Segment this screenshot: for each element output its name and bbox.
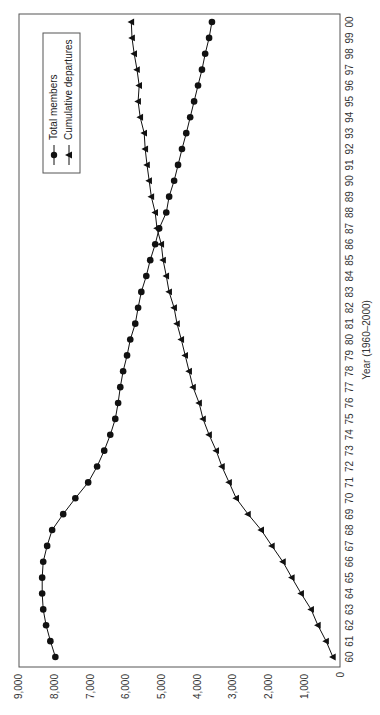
value-tick-label: 0 [335,672,346,678]
data-series [39,19,336,661]
year-tick-label: 89 [344,191,355,203]
circle-marker-icon [124,352,131,359]
year-tick-label: 77 [344,381,355,393]
year-tick-label: 74 [344,429,355,441]
value-axis-ticks: 01,0002,0003,0004,0005,0006,0007,0008,00… [13,672,345,699]
year-tick-label: 87 [344,222,355,234]
line-chart: 01,0002,0003,0004,0005,0006,0007,0008,00… [0,0,380,715]
value-tick-label: 8,000 [49,674,60,699]
year-tick-label: 60 [344,651,355,663]
value-tick-label: 4,000 [192,674,203,699]
legend: Total members Cumulative departures [43,33,80,173]
triangle-marker-icon [297,590,304,597]
circle-marker-icon [166,193,173,200]
year-tick-label: 90 [344,175,355,187]
triangle-marker-icon [128,19,135,26]
circle-marker-icon [202,50,209,57]
circle-marker-icon [120,368,127,375]
year-tick-label: 78 [344,365,355,377]
circle-marker-icon [51,152,57,158]
triangle-marker-icon [257,527,264,534]
year-tick-label: 83 [344,286,355,298]
year-tick-label: 00 [344,16,355,28]
triangle-marker-icon [288,574,295,581]
circle-marker-icon [115,400,122,407]
triangle-marker-icon [212,447,219,454]
circle-marker-icon [40,558,47,565]
circle-marker-icon [195,82,202,89]
year-tick-label: 91 [344,159,355,171]
value-tick-label: 3,000 [227,674,238,699]
circle-marker-icon [117,384,124,391]
year-tick-label: 97 [344,64,355,76]
triangle-marker-icon [279,558,286,565]
year-tick-label: 86 [344,238,355,250]
circle-marker-icon [183,130,190,137]
triangle-marker-icon [232,495,239,502]
year-tick-label: 79 [344,349,355,361]
legend-label-total-members: Total members [48,74,59,140]
circle-marker-icon [138,289,145,296]
circle-marker-icon [135,304,142,311]
circle-marker-icon [52,654,59,661]
value-tick-label: 2,000 [263,674,274,699]
year-tick-label: 61 [344,635,355,647]
triangle-marker-icon [225,479,232,486]
year-tick-label: 73 [344,445,355,457]
value-tick-label: 1,000 [299,674,310,699]
year-tick-label: 71 [344,476,355,488]
year-tick-label: 66 [344,556,355,568]
year-tick-label: 81 [344,318,355,330]
circle-marker-icon [112,416,119,423]
year-tick-label: 75 [344,413,355,425]
circle-marker-icon [147,257,154,264]
year-tick-label: 68 [344,524,355,536]
circle-marker-icon [47,638,54,645]
circle-marker-icon [191,98,198,105]
year-tick-label: 63 [344,603,355,615]
circle-marker-icon [187,114,194,121]
circle-marker-icon [40,606,47,613]
year-tick-label: 62 [344,619,355,631]
year-tick-label: 69 [344,508,355,520]
year-tick-label: 65 [344,572,355,584]
circle-marker-icon [209,19,216,26]
value-tick-label: 7,000 [85,674,96,699]
circle-marker-icon [127,336,134,343]
year-tick-label: 96 [344,80,355,92]
circle-marker-icon [107,431,114,438]
year-tick-label: 99 [344,32,355,44]
legend-label-cumulative-departures: Cumulative departures [63,39,74,140]
circle-marker-icon [175,162,182,169]
year-tick-label: 93 [344,127,355,139]
triangle-marker-icon [268,542,275,549]
year-tick-label: 64 [344,588,355,600]
circle-marker-icon [94,463,101,470]
year-axis-ticks: 6061626364656667686970717273747576777879… [344,16,355,663]
value-tick-label: 6,000 [120,674,131,699]
circle-marker-icon [72,495,79,502]
triangle-marker-icon [322,638,329,645]
year-tick-label: 72 [344,461,355,473]
circle-marker-icon [43,622,50,629]
year-tick-label: 82 [344,302,355,314]
year-tick-label: 76 [344,397,355,409]
circle-marker-icon [171,177,178,184]
value-tick-label: 5,000 [156,674,167,699]
triangle-marker-icon [244,511,251,518]
series-line [131,22,333,657]
circle-marker-icon [101,447,108,454]
circle-marker-icon [60,511,67,518]
year-tick-label: 95 [344,95,355,107]
year-axis-title: Year (1960–2000) [361,300,372,380]
circle-marker-icon [199,66,206,73]
year-tick-label: 94 [344,111,355,123]
circle-marker-icon [163,209,170,216]
triangle-marker-icon [134,98,141,105]
year-tick-label: 84 [344,270,355,282]
circle-marker-icon [132,320,139,327]
triangle-marker-icon [307,606,314,613]
year-tick-label: 70 [344,492,355,504]
year-tick-label: 80 [344,334,355,346]
circle-marker-icon [206,35,213,42]
